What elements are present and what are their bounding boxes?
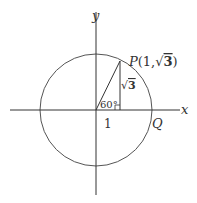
x-axis-label: x [181, 102, 189, 117]
point-p-label: P(1,√3) [128, 54, 178, 69]
diagram-svg: y x P(1,√3) √3 60° 1 Q [0, 0, 197, 203]
angle-label: 60° [100, 99, 118, 110]
y-axis-label: y [91, 8, 100, 23]
adjacent-side-label: 1 [104, 117, 112, 131]
unit-circle-diagram: y x P(1,√3) √3 60° 1 Q [0, 0, 197, 203]
point-q-label: Q [152, 116, 163, 131]
opposite-side-label: √3 [121, 79, 136, 92]
